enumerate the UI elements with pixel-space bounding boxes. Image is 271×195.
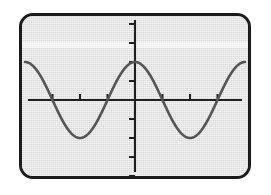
function-plot: [22, 16, 248, 176]
calculator-screenshot: [0, 0, 271, 195]
calculator-lcd-screen: [19, 13, 251, 179]
